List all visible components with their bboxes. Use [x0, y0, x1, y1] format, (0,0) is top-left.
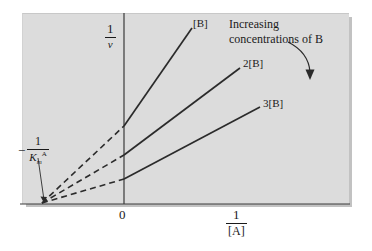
annotation-arrow-curve	[288, 42, 310, 72]
annotation-arrow-head	[306, 70, 315, 81]
km-base: K	[29, 150, 36, 162]
minus-sign: −	[18, 144, 25, 158]
x-intercept-denominator: KmA	[27, 151, 48, 166]
km-subscript: m	[37, 157, 42, 165]
series-label-3b: 3[B]	[263, 98, 283, 110]
y-axis-label-numerator: 1	[105, 22, 116, 36]
x-axis-label-denominator: [A]	[226, 225, 247, 238]
x-axis-label-numerator: 1	[226, 208, 247, 222]
x-intercept-numerator: 1	[27, 135, 48, 148]
series-1-dashed-extrapolation	[42, 155, 124, 203]
annotation-line-2: concentrations of B	[229, 32, 323, 47]
series-label-b: [B]	[193, 18, 208, 30]
x-intercept-label: − 1 KmA	[18, 135, 49, 166]
x-intercept-fraction: 1 KmA	[27, 135, 48, 166]
x-axis-label-fraction: 1 [A]	[226, 208, 247, 237]
annotation-line-1: Increasing	[229, 17, 323, 32]
series-2-line	[124, 107, 260, 179]
series-2-dashed-extrapolation	[42, 179, 124, 203]
increasing-concentration-annotation: Increasing concentrations of B	[229, 17, 323, 46]
km-superscript: A	[42, 150, 47, 158]
lineweaver-burk-figure: 1 v 1 [A] 0 − 1 KmA [B] 2[B] 3[B] Increa…	[0, 0, 372, 251]
y-axis-label: 1 v	[105, 22, 116, 50]
origin-label: 0	[119, 208, 126, 222]
x-axis-label: 1 [A]	[226, 208, 247, 237]
series-label-2b: 2[B]	[243, 58, 263, 70]
y-axis-label-denominator: v	[105, 39, 116, 51]
y-axis-label-fraction: 1 v	[105, 22, 116, 50]
series-1-line	[124, 68, 240, 155]
